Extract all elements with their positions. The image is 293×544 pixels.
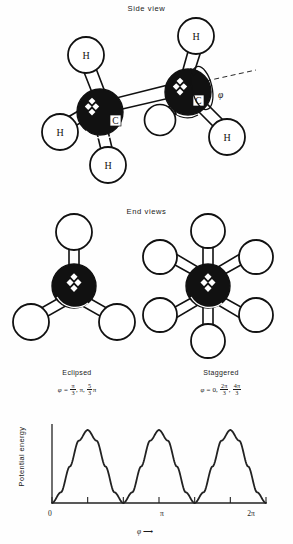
hydrogen-left-top: H	[68, 37, 104, 73]
chart-x-tick-label-2pi: 2π	[242, 509, 260, 518]
eclipsed-hydrogen-up	[56, 214, 92, 250]
ethane-conformation-figure: H H H H H C	[0, 0, 293, 544]
svg-text:H: H	[192, 31, 199, 42]
staggered-formula: φ = 0, 2π3, 4π3	[166, 383, 276, 397]
chart-x-ticks	[52, 497, 266, 503]
eclipsed-value-3: 53	[87, 383, 92, 397]
chart-y-axis-label: Potential energy	[17, 422, 26, 492]
eclipsed-sep-1: ,	[76, 386, 78, 394]
staggered-sep-1: ,	[229, 386, 231, 394]
rotation-angle-symbol: φ	[218, 90, 223, 100]
staggered-value-1: 0,	[213, 386, 218, 394]
eclipsed-hydrogen-right	[99, 304, 135, 340]
svg-text:H: H	[56, 127, 63, 138]
eclipsed-label: Eclipsed	[22, 369, 132, 376]
eclipsed-carbon-center	[52, 264, 96, 308]
carbon-left: C	[77, 89, 123, 138]
eclipsed-value-1: π3	[70, 383, 75, 397]
chart-x-axis-label: φ ⟶	[100, 527, 190, 536]
staggered-hydrogen-lower-right	[239, 298, 273, 332]
staggered-hydrogen-down	[191, 324, 225, 358]
svg-text:C: C	[112, 116, 118, 126]
staggered-label: Staggered	[166, 369, 276, 376]
side-view-molecule: H H H H H C	[42, 18, 256, 183]
eclipsed-sep-2: ,	[83, 386, 85, 394]
eclipsed-formula: φ = π3, π, 53π	[22, 383, 132, 397]
hydrogen-left-lower: H	[42, 114, 78, 150]
staggered-hydrogen-lower-left	[143, 298, 177, 332]
staggered-value-2: 2π3	[220, 383, 228, 397]
potential-energy-chart	[52, 424, 266, 503]
eclipsed-value-3-pi: π	[93, 386, 97, 394]
staggered-formula-prefix: φ =	[200, 386, 210, 394]
eclipsed-end-view-molecule	[13, 214, 135, 340]
end-views-title: End views	[0, 207, 293, 216]
eclipsed-hydrogen-left	[13, 304, 49, 340]
chart-x-axis-arrow-icon: ⟶	[143, 527, 153, 536]
hydrogen-right-back	[145, 105, 176, 136]
staggered-hydrogen-upper-right	[239, 240, 273, 274]
svg-text:H: H	[82, 50, 89, 61]
staggered-hydrogen-upper-left	[143, 240, 177, 274]
chart-curve-potential-energy	[52, 430, 266, 503]
chart-x-axis-symbol: φ	[137, 527, 141, 536]
svg-text:H: H	[223, 132, 230, 143]
staggered-carbon-center	[186, 264, 230, 308]
staggered-value-3: 4π3	[233, 383, 241, 397]
hydrogen-right-top: H	[178, 18, 214, 54]
hydrogen-right-lower: H	[209, 119, 245, 155]
rotation-axis-line	[206, 70, 256, 81]
staggered-hydrogen-up	[191, 214, 225, 248]
svg-text:H: H	[104, 160, 111, 171]
chart-x-tick-label-pi: π	[155, 509, 169, 518]
hydrogen-left-bottom: H	[90, 147, 126, 183]
chart-x-tick-label-0: 0	[43, 509, 57, 518]
staggered-end-view-molecule	[143, 214, 273, 358]
eclipsed-formula-prefix: φ =	[58, 386, 68, 394]
